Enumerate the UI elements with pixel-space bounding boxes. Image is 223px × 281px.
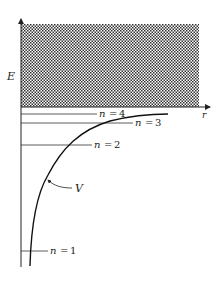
level-label-n3: n = 3 <box>135 117 161 128</box>
svg-text:n: n <box>50 245 56 256</box>
svg-text:=: = <box>109 108 117 119</box>
svg-text:=: = <box>145 117 153 128</box>
potential-curve <box>30 114 168 266</box>
level-label-n1: n = 1 <box>50 245 76 256</box>
continuum-region <box>21 24 199 107</box>
svg-text:3: 3 <box>155 117 161 128</box>
svg-text:4: 4 <box>119 108 125 119</box>
svg-text:=: = <box>104 139 112 150</box>
energy-axis-label: E <box>6 70 15 83</box>
svg-text:1: 1 <box>70 245 76 256</box>
level-label-n2: n = 2 <box>94 139 120 150</box>
svg-text:n: n <box>135 117 141 128</box>
svg-text:=: = <box>60 245 68 256</box>
level-label-n4: n = 4 <box>99 108 125 119</box>
svg-text:2: 2 <box>114 139 120 150</box>
svg-text:n: n <box>94 139 100 150</box>
curve-label: V <box>75 182 84 195</box>
radius-axis-label: r <box>202 110 207 120</box>
svg-text:n: n <box>99 108 105 119</box>
curve-leader-arrow <box>48 180 72 188</box>
energy-level-diagram: E r V n = 4 n = 3 n = 2 n = 1 <box>0 0 223 281</box>
